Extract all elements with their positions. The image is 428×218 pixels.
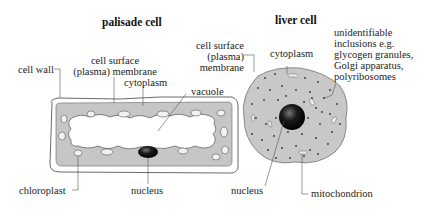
vacuole [69,114,216,149]
label-palisade-membrane-line1: cell surface [70,55,160,66]
palisade-nucleus [138,146,158,158]
label-liver-membrane-line2: (plasma) [194,51,244,62]
label-liver-cytoplasm: cytoplasm [270,48,313,59]
palisade-cell-title: palisade cell [102,16,162,28]
label-liver-membrane-line3: membrane [194,62,244,73]
label-liver-membrane-line1: cell surface [194,40,244,51]
label-palisade-membrane-line2: (plasma) membrane [70,66,160,77]
liver-nucleus [279,104,305,130]
label-inclusions-line3: glycogen granules, [334,49,413,60]
liver-cell [243,68,347,163]
label-liver-membrane: cell surface (plasma) membrane [194,40,244,73]
liver-cell-title: liver cell [275,14,317,26]
label-palisade-cytoplasm: cytoplasm [124,77,167,88]
label-vacuole: vacuole [191,86,224,97]
label-liver-nucleus: nucleus [231,185,263,196]
label-mitochondrion: mitochondrion [311,188,373,199]
label-chloroplast: chloroplast [19,185,66,196]
label-palisade-membrane: cell surface (plasma) membrane [70,55,160,77]
label-cell-wall: cell wall [18,64,54,75]
label-inclusions-line2: inclusions e.g. [334,38,413,49]
label-inclusions-line4: Golgi apparatus, [334,60,413,71]
label-inclusions-line1: unidentifiable [334,27,413,38]
label-inclusions: unidentifiable inclusions e.g. glycogen … [334,27,413,82]
label-inclusions-line5: polyribosomes [334,71,413,82]
label-palisade-nucleus: nucleus [131,185,163,196]
